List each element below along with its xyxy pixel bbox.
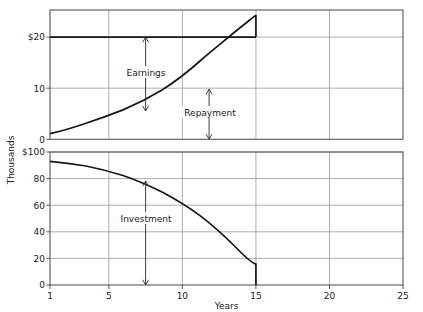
bottom-ytick-label-40: 40	[34, 227, 46, 237]
dual-panel-line-chart: Earnings Repayment $20 10 0	[0, 0, 423, 312]
top-ytick-label-0: 0	[39, 135, 45, 145]
bottom-ytick-label-20: 20	[34, 254, 46, 264]
chart-background	[0, 0, 423, 312]
earnings-label: Earnings	[126, 68, 165, 78]
yaxis-title: Thousands	[6, 135, 16, 185]
xtick-label-25: 25	[397, 291, 408, 301]
chart-figure: Earnings Repayment $20 10 0	[0, 0, 423, 312]
bottom-ytick-label-60: 60	[34, 201, 46, 211]
investment-label: Investment	[121, 214, 172, 224]
xtick-label-1: 1	[47, 291, 53, 301]
bottom-ytick-label-100: $100	[22, 147, 45, 157]
xtick-label-10: 10	[177, 291, 189, 301]
top-ytick-label-10: 10	[34, 84, 46, 94]
xtick-label-15: 15	[250, 291, 261, 301]
xtick-label-20: 20	[324, 291, 336, 301]
top-ytick-label-20: $20	[28, 32, 45, 42]
xaxis-title: Years	[214, 301, 239, 311]
bottom-ytick-label-0: 0	[39, 280, 45, 290]
bottom-ytick-label-80: 80	[34, 174, 46, 184]
repayment-label: Repayment	[184, 108, 236, 118]
xtick-label-5: 5	[106, 291, 112, 301]
